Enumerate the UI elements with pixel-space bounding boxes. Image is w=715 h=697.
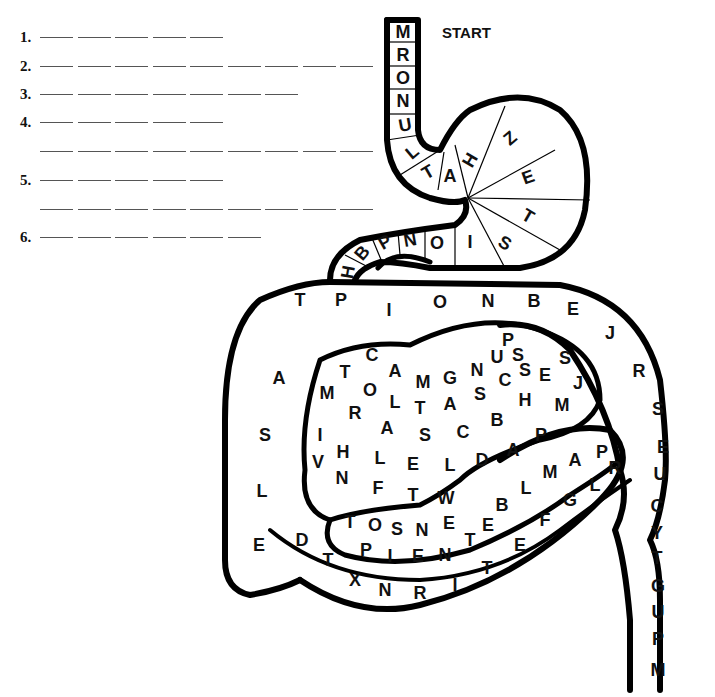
letter-cell: T	[415, 398, 426, 418]
letter-cell: L	[521, 478, 532, 498]
letter-cell: D	[296, 530, 309, 550]
letter-cell: I	[452, 575, 457, 595]
letter-cell: H	[519, 390, 532, 410]
letter-cell: S	[519, 360, 531, 380]
letter-cell: E	[407, 454, 419, 474]
letter-cell: G	[443, 368, 457, 388]
letter-cell: P	[596, 442, 608, 462]
letter-cell: E	[539, 365, 551, 385]
letter-cell: T	[345, 512, 356, 532]
letter-cell: S	[474, 384, 486, 404]
letter-cell: M	[651, 660, 666, 680]
letter-cell: P	[535, 425, 547, 445]
letter-cell: O	[396, 68, 410, 88]
letter-cell: A	[381, 418, 394, 438]
letter-cell: M	[320, 383, 335, 403]
letter-cell: N	[439, 545, 452, 565]
letter-cell: R	[609, 458, 622, 478]
letter-cell: R	[397, 45, 410, 65]
digestive-tract-diagram: M R O N U L T A H Z E T S I O N P B H T …	[0, 0, 715, 697]
letter-cell: M	[555, 395, 570, 415]
letter-cell: X	[349, 570, 361, 590]
letter-cell: P	[652, 629, 664, 649]
letter-cell: N	[416, 520, 429, 540]
letter-cell: Y	[651, 523, 663, 543]
esophagus-letters: M R O N U L T A	[396, 22, 457, 186]
letter-cell: S	[652, 399, 664, 419]
letter-cell: N	[471, 360, 484, 380]
letter-cell: E	[412, 546, 424, 566]
letter-cell: L	[445, 455, 456, 475]
letter-cell: V	[312, 452, 324, 472]
rectum-letters: E U C Y T G U P M	[651, 437, 670, 680]
letter-cell: A	[569, 450, 582, 470]
large-intestine-outline	[225, 282, 330, 595]
letter-cell: O	[363, 380, 377, 400]
letter-cell: F	[373, 478, 384, 498]
letter-cell: H	[458, 149, 482, 170]
letter-cell: N	[397, 91, 410, 111]
letter-cell: H	[337, 442, 350, 462]
letter-cell: G	[651, 576, 665, 596]
letter-cell: I	[387, 546, 392, 566]
letter-cell: S	[391, 519, 403, 539]
letter-cell: C	[651, 496, 664, 516]
letter-cell: F	[540, 510, 551, 530]
letter-cell: U	[654, 464, 667, 484]
letter-cell: J	[605, 323, 615, 343]
letter-cell: C	[457, 422, 470, 442]
letter-cell: A	[444, 394, 457, 414]
letter-cell: A	[389, 361, 402, 381]
letter-cell: N	[379, 580, 392, 600]
letter-cell: C	[499, 370, 512, 390]
letter-cell: J	[573, 373, 583, 393]
letter-cell: S	[495, 231, 515, 254]
letter-cell: P	[360, 540, 372, 560]
letter-cell: L	[401, 141, 422, 163]
letter-cell: T	[408, 485, 419, 505]
letter-cell: M	[416, 372, 431, 392]
letter-cell: O	[430, 233, 444, 253]
letter-cell: O	[368, 515, 382, 535]
letter-cell: P	[335, 290, 347, 310]
letter-cell: O	[433, 292, 447, 312]
letter-cell: E	[519, 166, 537, 189]
letter-cell: I	[386, 300, 391, 320]
letter-cell: R	[414, 583, 427, 603]
letter-cell: L	[375, 448, 386, 468]
letter-cell: U	[397, 114, 413, 136]
letter-cell: T	[465, 530, 476, 550]
letter-cell: T	[295, 290, 306, 310]
letter-cell: U	[652, 602, 665, 622]
letter-cell: B	[528, 291, 541, 311]
letter-cell: E	[657, 437, 669, 457]
letter-cell: W	[438, 488, 455, 508]
letter-cell: N	[336, 468, 349, 488]
letter-cell: A	[273, 368, 286, 388]
letter-cell: T	[518, 205, 538, 228]
letter-cell: Z	[499, 127, 520, 149]
letter-cell: M	[543, 462, 558, 482]
letter-cell: N	[482, 291, 495, 311]
letter-cell: E	[253, 535, 265, 555]
letter-cell: E	[443, 513, 455, 533]
letter-cell: H	[337, 264, 359, 280]
letter-cell: L	[257, 481, 268, 501]
letter-cell: T	[652, 548, 663, 568]
letter-cell: B	[496, 495, 509, 515]
letter-cell: R	[349, 403, 362, 423]
letter-cell: L	[390, 392, 401, 412]
letter-cell: U	[491, 347, 504, 367]
letter-cell: S	[259, 425, 271, 445]
letter-cell: A	[507, 440, 520, 460]
letter-cell: E	[567, 299, 579, 319]
letter-cell: G	[563, 490, 577, 510]
letter-cell: C	[366, 345, 379, 365]
large-intestine-left-letters: A S L E	[253, 368, 286, 555]
letter-cell: T	[418, 161, 438, 184]
letter-cell: L	[590, 475, 601, 495]
letter-cell: B	[491, 410, 504, 430]
letter-cell: D	[476, 450, 489, 470]
letter-cell: E	[514, 535, 526, 555]
letter-cell: A	[444, 166, 457, 186]
